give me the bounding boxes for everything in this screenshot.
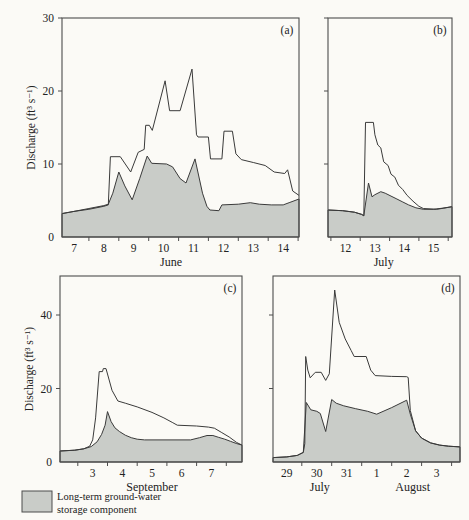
figure-canvas: 7891011121314June0102030Discharge (ft³ s…: [0, 0, 469, 520]
legend-swatch: [22, 491, 52, 512]
x-tick-label: 12: [340, 242, 352, 254]
x-tick-label: 10: [158, 242, 170, 254]
x-tick-label: 3: [90, 467, 96, 479]
x-tick-label: 6: [179, 467, 185, 479]
x-tick-label: 13: [369, 242, 381, 254]
x-tick-label: 8: [101, 242, 107, 254]
y-tick-label: 0: [46, 456, 52, 468]
x-tick-label: 15: [428, 242, 440, 254]
y-tick-label: 10: [43, 158, 55, 170]
month-label: June: [160, 255, 182, 269]
y-axis-title: Discharge (ft³ s⁻¹): [23, 327, 36, 411]
x-tick-label: 5: [149, 467, 155, 479]
hydrograph-figure: 7891011121314June0102030Discharge (ft³ s…: [0, 0, 469, 520]
panel-letter: (a): [281, 24, 294, 37]
x-tick-label: 14: [277, 242, 289, 254]
x-tick-label: 14: [398, 242, 410, 254]
month-label: July: [310, 480, 330, 494]
x-tick-label: 1: [374, 467, 380, 479]
x-tick-label: 30: [311, 467, 323, 479]
y-tick-label: 0: [48, 231, 54, 243]
x-tick-label: 11: [188, 242, 199, 254]
x-tick-label: 4: [119, 467, 125, 479]
y-tick-label: 20: [43, 85, 55, 97]
y-tick-label: 20: [41, 383, 53, 395]
panel-letter: (c): [224, 282, 237, 295]
x-tick-label: 12: [218, 242, 230, 254]
x-tick-label: 3: [434, 467, 440, 479]
y-tick-label: 40: [41, 309, 53, 321]
legend-label-line2: storage component: [57, 504, 137, 515]
x-tick-label: 31: [341, 467, 353, 479]
month-label: August: [395, 480, 430, 494]
legend-label-line1: Long-term ground-water: [57, 491, 162, 502]
x-tick-label: 9: [131, 242, 137, 254]
y-axis-title: Discharge (ft³ s⁻¹): [25, 85, 38, 169]
month-label: July: [374, 255, 394, 269]
x-tick-label: 7: [71, 242, 77, 254]
x-tick-label: 2: [404, 467, 410, 479]
y-tick-label: 30: [43, 12, 55, 24]
x-tick-label: 7: [209, 467, 215, 479]
panel-letter: (b): [433, 24, 447, 37]
x-tick-label: 13: [248, 242, 260, 254]
panel-letter: (d): [441, 282, 455, 295]
x-tick-label: 29: [281, 467, 293, 479]
